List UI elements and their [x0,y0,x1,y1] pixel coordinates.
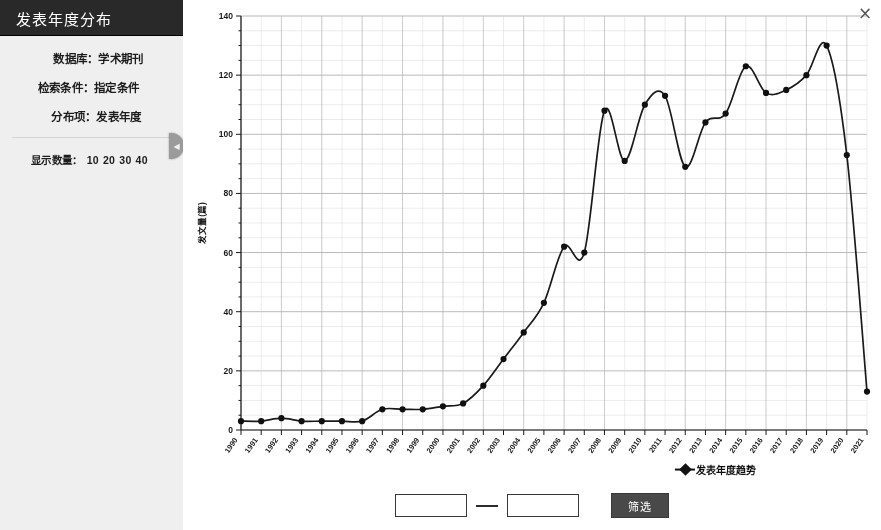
display-count-options: 10203040 [87,154,152,166]
display-count-option-10[interactable]: 10 [87,154,99,166]
svg-text:1993: 1993 [283,436,300,455]
svg-text:1999: 1999 [404,436,421,455]
svg-text:2019: 2019 [808,436,825,455]
display-count-option-30[interactable]: 30 [119,154,131,166]
legend-diamond-icon [679,463,692,476]
display-count-label: 显示数量： [31,154,83,166]
svg-text:2009: 2009 [606,436,623,455]
svg-text:1995: 1995 [324,436,341,455]
svg-text:20: 20 [224,366,234,376]
svg-text:2008: 2008 [586,436,603,455]
svg-text:2001: 2001 [445,436,462,455]
svg-text:1992: 1992 [263,436,280,455]
distribution-chart-window: 发表年度分布 数据库：学术期刊 检索条件：指定条件 分布项：发表年度 显示数量：… [0,0,881,530]
display-count-option-20[interactable]: 20 [103,154,115,166]
svg-text:2003: 2003 [485,436,502,455]
svg-text:2018: 2018 [788,436,805,455]
svg-text:发文量(篇): 发文量(篇) [197,202,207,245]
meta-database: 数据库：学术期刊 [0,50,183,66]
svg-text:120: 120 [219,70,233,80]
chart-area: × 020406080100120140发文量(篇)19901991199219… [183,0,881,530]
display-count-row: 显示数量：10203040 [0,152,183,167]
svg-text:2010: 2010 [627,436,644,455]
meta-search-condition: 检索条件：指定条件 [0,79,183,95]
info-panel: 发表年度分布 数据库：学术期刊 检索条件：指定条件 分布项：发表年度 显示数量：… [0,0,184,530]
svg-text:2020: 2020 [829,436,846,455]
meta-distribution-item: 分布项：发表年度 [0,108,183,124]
svg-text:2004: 2004 [505,435,522,455]
svg-text:1991: 1991 [243,436,260,455]
svg-text:2006: 2006 [546,436,563,455]
svg-text:2012: 2012 [667,436,684,455]
range-end-input[interactable] [507,494,579,517]
legend-label: 发表年度趋势 [696,462,756,477]
svg-text:60: 60 [224,248,234,258]
svg-text:1996: 1996 [344,436,361,455]
svg-text:0: 0 [228,425,233,435]
svg-text:40: 40 [224,307,234,317]
svg-text:2002: 2002 [465,436,482,455]
svg-text:2005: 2005 [526,436,543,455]
svg-text:2011: 2011 [647,436,664,454]
svg-text:2015: 2015 [728,436,745,455]
svg-text:100: 100 [219,129,233,139]
svg-text:2016: 2016 [748,436,765,455]
svg-text:2000: 2000 [425,436,442,455]
range-separator [476,505,498,507]
range-start-input[interactable] [395,494,467,517]
svg-text:1990: 1990 [223,436,240,455]
svg-text:2021: 2021 [849,436,866,455]
filter-bar: 筛选 [183,493,881,518]
line-chart: 020406080100120140发文量(篇)1990199119921993… [183,0,881,490]
chart-legend: 发表年度趋势 [681,462,756,477]
svg-text:1997: 1997 [364,436,381,455]
svg-text:80: 80 [224,188,234,198]
panel-divider [12,137,171,138]
panel-body: 数据库：学术期刊 检索条件：指定条件 分布项：发表年度 显示数量：1020304… [0,36,183,167]
svg-text:2007: 2007 [566,436,583,455]
svg-text:140: 140 [219,11,233,21]
svg-text:2013: 2013 [687,436,704,455]
filter-button[interactable]: 筛选 [611,493,669,518]
svg-text:2017: 2017 [768,436,785,455]
panel-title: 发表年度分布 [0,0,183,36]
svg-text:2014: 2014 [707,435,724,455]
display-count-option-40[interactable]: 40 [136,154,148,166]
svg-text:1994: 1994 [303,435,320,455]
close-icon[interactable]: × [856,5,874,23]
svg-text:1998: 1998 [384,436,401,455]
